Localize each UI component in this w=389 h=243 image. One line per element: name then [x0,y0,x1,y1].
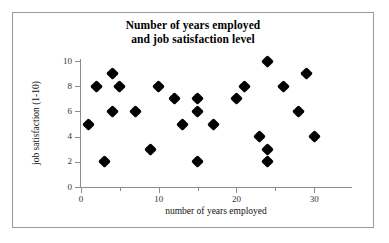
y-tick-label-10: 10 [53,57,72,66]
y-tick-label-0: 0 [53,183,72,192]
y-tick-2 [75,162,80,163]
y-tick-6 [75,111,80,112]
y-tick-label-2: 2 [53,157,72,166]
figure-frame: Number of years employed and job satisfa… [12,12,374,228]
chart-title-line-2: and job satisfaction level [13,32,373,46]
x-tick-20 [236,188,237,193]
chart-title: Number of years employed and job satisfa… [13,18,373,46]
x-tick-10 [159,188,160,193]
x-tick-label-30: 30 [302,194,326,204]
y-tick-0 [75,187,80,188]
chart-title-line-1: Number of years employed [13,18,373,32]
x-tick-label-0: 0 [69,194,93,204]
y-tick-10 [75,61,80,62]
x-tick-label-20: 20 [224,194,248,204]
x-tick-label-10: 10 [147,194,171,204]
y-tick-label-8: 8 [53,82,72,91]
y-axis-title: job satisfaction (1-10) [31,64,41,182]
x-tick-0 [81,188,82,193]
y-tick-4 [75,137,80,138]
x-tick-30 [314,188,315,193]
x-tick-minor-25 [275,188,276,191]
x-tick-minor-15 [198,188,199,191]
y-tick-8 [75,86,80,87]
y-tick-label-6: 6 [53,107,72,116]
scatter-chart: Number of years employed and job satisfa… [13,13,373,227]
x-axis-title: number of years employed [80,206,352,216]
y-tick-label-4: 4 [53,132,72,141]
x-tick-minor-5 [120,188,121,191]
